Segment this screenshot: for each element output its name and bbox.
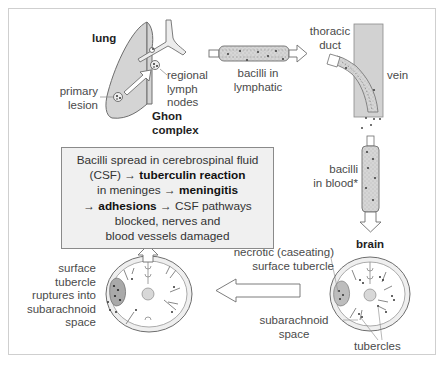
label-lymphatic-line2: lymphatic: [228, 81, 288, 95]
lymphatic-vessel: [209, 45, 307, 62]
blood-vessel: [360, 136, 381, 232]
box-line4-text: →: [83, 199, 98, 213]
label-primary-lesion-line2: lesion: [50, 99, 98, 113]
label-primary-lesion: primary lesion: [50, 85, 98, 112]
box-line1: Bacilli spread in cerebrospinal fluid: [62, 153, 273, 168]
label-lymphatic-line1: bacilli in: [228, 67, 288, 81]
label-thoracic-line1: thoracic: [306, 25, 354, 39]
label-tubercles: tubercles: [354, 340, 401, 354]
label-rupture-line3: ruptures into: [18, 289, 96, 303]
brain-right: [330, 257, 410, 340]
label-rupture-line4: subarachnoid: [18, 303, 96, 317]
label-regional-line3: nodes: [167, 96, 208, 110]
label-regional-line2: lymph: [167, 83, 208, 97]
label-regional-line1: regional: [167, 69, 208, 83]
box-line5: blocked, nerves and: [62, 214, 273, 229]
label-rupture-line5: space: [18, 316, 96, 330]
label-brain: brain: [356, 238, 384, 252]
label-thoracic-duct: thoracic duct: [306, 25, 354, 52]
label-subarachnoid-line1: subarachnoid: [258, 314, 330, 328]
box-line2: (CSF) → tuberculin reaction: [62, 168, 273, 183]
label-subarachnoid-line2: space: [258, 328, 330, 342]
label-bacilli-blood: bacilli in blood*: [300, 163, 358, 190]
label-regional-lymph-nodes: regional lymph nodes: [167, 69, 208, 110]
box-line3-text: in meninges →: [97, 183, 179, 197]
brain-left: [106, 245, 192, 332]
label-thoracic-line2: duct: [306, 39, 354, 53]
label-surface-tubercle-ruptures: surface tubercle ruptures into subarachn…: [18, 262, 96, 330]
label-primary-lesion-line1: primary: [50, 85, 98, 99]
box-line2-text: (CSF) →: [89, 168, 139, 182]
label-bacilli-lymphatic: bacilli in lymphatic: [228, 67, 288, 94]
label-vein: vein: [387, 69, 408, 83]
label-rupture-line2: tubercle: [18, 276, 96, 290]
arrow-left: [216, 279, 300, 302]
label-ghon-complex: Ghon complex: [152, 110, 199, 137]
label-blood-line2: in blood*: [300, 177, 358, 191]
label-lung: lung: [92, 32, 116, 46]
label-subarachnoid-space: subarachnoid space: [258, 314, 330, 341]
box-term-tuberculin-reaction: tuberculin reaction: [139, 168, 245, 182]
box-term-meningitis: meningitis: [179, 183, 238, 197]
label-blood-line1: bacilli: [300, 163, 358, 177]
label-ghon-line2: complex: [152, 124, 199, 138]
box-line3: in meninges → meningitis: [62, 183, 273, 198]
box-line6: blood vessels damaged: [62, 229, 273, 244]
csf-spread-box: Bacilli spread in cerebrospinal fluid (C…: [61, 147, 274, 249]
box-line4: → adhesions → CSF pathways: [62, 199, 273, 214]
box-term-adhesions: adhesions: [98, 199, 156, 213]
label-ghon-line1: Ghon: [152, 110, 199, 124]
box-line4-post: → CSF pathways: [157, 199, 252, 213]
label-rupture-line1: surface: [18, 262, 96, 276]
label-necrotic-tubercle: necrotic (caseating) surface tubercle: [230, 246, 334, 273]
label-necrotic-line2: surface tubercle: [230, 260, 334, 274]
